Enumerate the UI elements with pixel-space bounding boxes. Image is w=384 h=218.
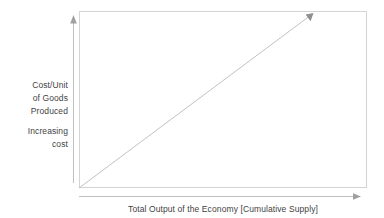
x-axis-arrowhead-icon [353,193,361,199]
increasing-cost-note-line-2: cost [0,138,68,151]
increasing-cost-note-line-1: Increasing [0,125,68,138]
economics-supply-diagram: Cost/Unit of Goods Produced Increasing c… [0,0,384,218]
plot-area-frame [79,11,367,188]
y-axis-label-line-3: Produced [0,105,68,118]
y-axis-label-line-1: Cost/Unit [0,79,68,92]
y-axis-label-block: Cost/Unit of Goods Produced Increasing c… [0,79,68,151]
y-axis-arrowhead-icon [70,15,77,24]
y-axis-label-line-2: of Goods [0,92,68,105]
x-axis-label: Total Output of the Economy [Cumulative … [79,204,367,215]
